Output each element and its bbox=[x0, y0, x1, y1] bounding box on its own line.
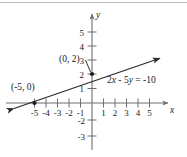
coordinate-plane-svg: -5 -4 -3 -2 -1 1 2 3 4 5 5 4 3 2 1 -2 -3… bbox=[0, 0, 187, 157]
equation-equals: = bbox=[133, 75, 143, 85]
x-intercept-label: (-5, 0) bbox=[11, 82, 35, 93]
y-intercept-leader-line bbox=[86, 60, 91, 72]
y-intercept-label: (0, 2) bbox=[59, 54, 80, 65]
x-tick-label-4: 4 bbox=[136, 108, 141, 118]
point-marker-y-intercept bbox=[90, 72, 94, 76]
x-tick-label-3: 3 bbox=[124, 108, 129, 118]
y-tick-label-4: 4 bbox=[80, 42, 85, 52]
x-tick-label-5: 5 bbox=[147, 108, 152, 118]
y-tick-label-5: 5 bbox=[80, 28, 85, 38]
x-tick-label--3: -3 bbox=[54, 108, 62, 118]
x-tick-label-1: 1 bbox=[101, 108, 106, 118]
point-marker-x-intercept bbox=[32, 101, 36, 105]
equation-rhs: -10 bbox=[143, 75, 156, 85]
equation-minus: - bbox=[116, 75, 124, 85]
x-tick-label-2: 2 bbox=[113, 108, 118, 118]
x-tick-label--5: -5 bbox=[31, 108, 39, 118]
x-axis-name-label: x bbox=[169, 105, 175, 115]
y-axis-name-label: y bbox=[95, 10, 101, 20]
equation-label: 2x - 5y = -10 bbox=[107, 75, 156, 85]
graph-figure: -5 -4 -3 -2 -1 1 2 3 4 5 5 4 3 2 1 -2 -3… bbox=[0, 0, 187, 157]
x-tick-label--4: -4 bbox=[42, 108, 50, 118]
y-tick-label-3: 3 bbox=[80, 56, 85, 66]
x-tick-label--2: -2 bbox=[65, 108, 73, 118]
y-tick-label--3: -3 bbox=[78, 132, 86, 142]
y-tick-label--2: -2 bbox=[78, 116, 86, 126]
y-tick-label-2: 2 bbox=[80, 70, 85, 80]
